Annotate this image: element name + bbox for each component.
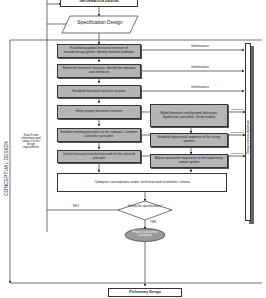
left-step-3: Establish functional structure variants [57, 85, 141, 98]
no-label: NO [70, 204, 82, 208]
right-step-1-text: Model kinematic and dynamic behaviour. S… [153, 112, 225, 119]
feedback-note: Search new information and adapt it to t… [19, 134, 43, 149]
right-step-1: Model kinematic and dynamic behaviour. S… [150, 104, 228, 127]
right-step-2: Establish operational sequence of the ac… [150, 133, 228, 147]
compare-text: Compare conceptions under technical and … [94, 181, 190, 185]
info-label-1: Informations [175, 45, 225, 49]
ellipse-label: Physical and control conception [128, 231, 162, 237]
info-label-3: Informations [175, 86, 225, 90]
preliminary-text: Preliminary Design [129, 291, 161, 295]
database-label: Design process database [247, 120, 251, 154]
small-info-label-1: Informations [228, 108, 246, 112]
left-step-1: Establishing global functional structure… [57, 44, 141, 58]
phase-label: CONCEPTUAL DESIGN [3, 141, 9, 196]
information-design-box: INFORMATION DESIGN [60, 0, 138, 7]
left-step-2: Refine the functional structure, identif… [57, 64, 141, 78]
right-step-2-text: Establish operational sequence of the ac… [153, 136, 225, 143]
design-process-database: Design process database [245, 43, 251, 221]
left-step-4-text: Select proper functional structure [76, 110, 123, 114]
left-step-6-text: Derive functional structure focused on t… [60, 153, 138, 160]
left-step-5: Establish working principles for the sub… [57, 128, 141, 142]
left-step-6: Derive functional structure focused on t… [57, 150, 141, 163]
information-design-label: INFORMATION DESIGN [80, 0, 119, 4]
compare-box: Compare conceptions under technical and … [57, 173, 227, 192]
right-step-3: Adjust operational sequences to the supe… [150, 154, 228, 168]
small-info-label-3: Informations [228, 152, 246, 156]
small-info-label-2: Informations [228, 131, 246, 135]
preliminary-design-box: Preliminary Design [108, 288, 182, 297]
specification-design-label: Specification Design [72, 20, 128, 25]
info-label-2: Informations [175, 66, 225, 70]
yes-label: YES [147, 221, 159, 225]
left-step-1-text: Establishing global functional structure… [60, 47, 138, 54]
left-step-3-text: Establish functional structure variants [73, 90, 126, 94]
left-step-4: Select proper functional structure [57, 105, 141, 119]
left-step-5-text: Establish working principles for the sub… [60, 131, 138, 138]
right-step-3-text: Adjust operational sequences to the supe… [153, 157, 225, 164]
left-step-2-text: Refine the functional structure, identif… [60, 67, 138, 74]
decision-label: Satisfy the specifications? [127, 205, 163, 209]
